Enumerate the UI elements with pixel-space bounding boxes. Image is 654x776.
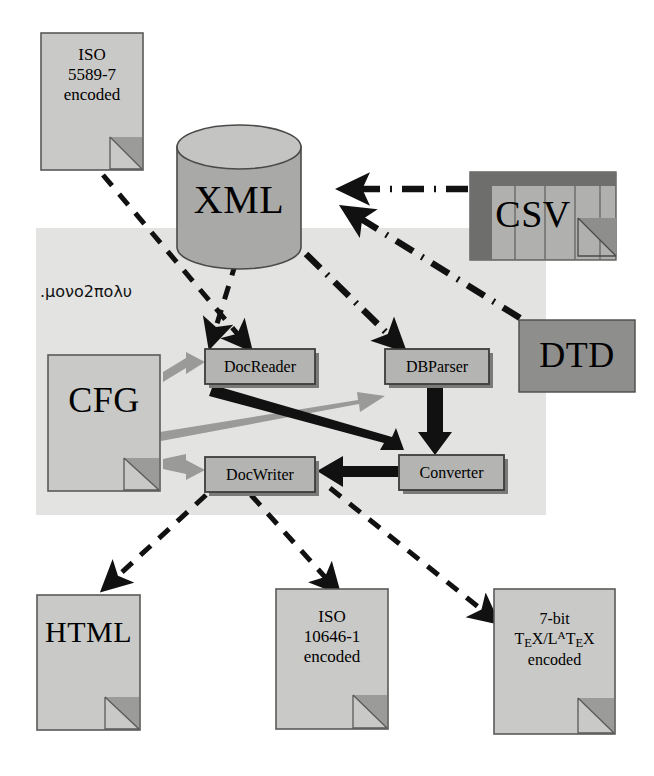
node-html-shape[interactable] [37,595,140,730]
node-dtd-shape[interactable] [519,320,635,392]
processing-area-label: .μονο2πολυ [40,282,132,301]
node-xml-shape[interactable] [177,125,301,269]
node-docreader-shape[interactable] [205,349,315,384]
diagram-canvas: .μονο2πολυ ISO 5589-7 encoded XML CSV DT… [0,0,654,776]
node-iso5589-shape[interactable] [41,33,143,170]
node-iso10646-shape[interactable] [276,589,388,729]
diagram-svg [0,0,654,776]
node-csv-shape[interactable] [470,172,616,260]
node-converter-shape[interactable] [399,455,504,490]
node-tex-shape[interactable] [494,589,615,734]
node-dbparser-shape[interactable] [385,349,489,384]
node-cfg-shape[interactable] [48,355,160,491]
node-docwriter-shape[interactable] [205,457,315,492]
